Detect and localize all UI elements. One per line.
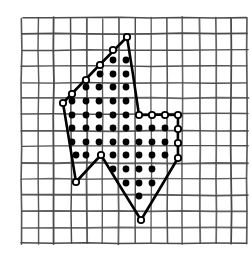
grid-line-horizontal bbox=[21, 178, 246, 179]
grid-line-vertical bbox=[118, 18, 119, 244]
boundary-lattice-point bbox=[175, 126, 181, 132]
boundary-lattice-point bbox=[124, 34, 130, 40]
interior-lattice-dot bbox=[123, 57, 130, 64]
figure-container bbox=[0, 0, 251, 256]
grid-line-horizontal bbox=[22, 33, 247, 34]
grid-line-vertical bbox=[216, 18, 217, 244]
grid-line-vertical bbox=[102, 19, 103, 243]
grid-line-vertical bbox=[38, 18, 39, 244]
interior-lattice-dot bbox=[83, 125, 90, 132]
interior-lattice-dot bbox=[123, 125, 130, 132]
interior-lattice-dot bbox=[162, 152, 169, 159]
boundary-lattice-point bbox=[98, 152, 104, 158]
interior-lattice-dot bbox=[110, 152, 117, 159]
boundary-lattice-point bbox=[73, 179, 79, 185]
interior-lattice-dot bbox=[123, 98, 130, 105]
interior-lattice-dot bbox=[149, 125, 156, 132]
interior-lattice-dot bbox=[110, 57, 117, 64]
interior-lattice-dot bbox=[110, 166, 117, 173]
interior-lattice-dot bbox=[149, 166, 156, 173]
interior-lattice-dot bbox=[149, 180, 156, 187]
interior-lattice-dot bbox=[136, 180, 143, 187]
grid-line-horizontal bbox=[21, 243, 247, 244]
interior-lattice-dot bbox=[96, 98, 103, 105]
interior-lattice-dot bbox=[110, 139, 117, 146]
interior-lattice-dot bbox=[96, 84, 103, 91]
interior-lattice-dot bbox=[123, 112, 130, 119]
boundary-lattice-point bbox=[149, 112, 155, 118]
interior-lattice-dot bbox=[136, 125, 143, 132]
interior-lattice-dot bbox=[97, 71, 104, 78]
grid-line-vertical bbox=[247, 18, 248, 244]
interior-lattice-dot bbox=[69, 98, 76, 105]
interior-lattice-dot bbox=[162, 125, 169, 132]
interior-lattice-dot bbox=[83, 84, 90, 91]
interior-lattice-dot bbox=[83, 139, 90, 146]
lattice-polygon-figure bbox=[0, 0, 251, 256]
interior-lattice-dot bbox=[110, 98, 117, 105]
interior-lattice-dot bbox=[110, 112, 117, 119]
boundary-lattice-point bbox=[110, 47, 116, 53]
grid-line-vertical bbox=[182, 17, 183, 244]
boundary-lattice-point bbox=[97, 62, 103, 68]
interior-lattice-dot bbox=[69, 112, 76, 119]
interior-lattice-dot bbox=[110, 125, 117, 132]
grid-line-vertical bbox=[231, 18, 232, 243]
interior-lattice-dot bbox=[96, 125, 103, 132]
interior-lattice-dot bbox=[149, 152, 156, 159]
boundary-lattice-point bbox=[69, 91, 75, 97]
boundary-lattice-point bbox=[162, 112, 168, 118]
interior-lattice-dot bbox=[149, 139, 156, 146]
interior-lattice-dot bbox=[123, 71, 130, 78]
grid-line-vertical bbox=[21, 19, 22, 245]
boundary-lattice-point bbox=[175, 112, 181, 118]
boundary-lattice-point bbox=[175, 155, 181, 161]
interior-lattice-dot bbox=[96, 139, 103, 146]
interior-lattice-dot bbox=[162, 139, 169, 146]
interior-lattice-dot bbox=[136, 139, 143, 146]
interior-lattice-dot bbox=[136, 152, 143, 159]
grid-line-vertical bbox=[199, 19, 200, 243]
interior-lattice-dot bbox=[73, 152, 80, 159]
interior-lattice-dot bbox=[123, 84, 130, 91]
grid-line-vertical bbox=[53, 17, 54, 244]
boundary-lattice-point bbox=[175, 140, 181, 146]
interior-lattice-dot bbox=[69, 139, 76, 146]
interior-lattice-dot bbox=[83, 98, 90, 105]
interior-lattice-dot bbox=[136, 193, 143, 200]
boundary-lattice-point bbox=[138, 217, 144, 223]
boundary-lattice-point bbox=[60, 100, 66, 106]
interior-lattice-dot bbox=[110, 84, 117, 91]
interior-lattice-dot bbox=[110, 71, 117, 78]
boundary-lattice-point bbox=[83, 77, 89, 83]
interior-lattice-dot bbox=[83, 112, 90, 119]
interior-lattice-dot bbox=[123, 166, 130, 173]
interior-lattice-dot bbox=[69, 125, 76, 132]
boundary-lattice-point bbox=[136, 112, 142, 118]
interior-lattice-dot bbox=[83, 152, 90, 159]
interior-lattice-dot bbox=[123, 180, 130, 187]
grid-line-horizontal bbox=[21, 66, 247, 67]
interior-lattice-dot bbox=[136, 166, 143, 173]
interior-lattice-dot bbox=[96, 112, 103, 119]
interior-lattice-dot bbox=[123, 139, 130, 146]
interior-lattice-dot bbox=[123, 152, 130, 159]
